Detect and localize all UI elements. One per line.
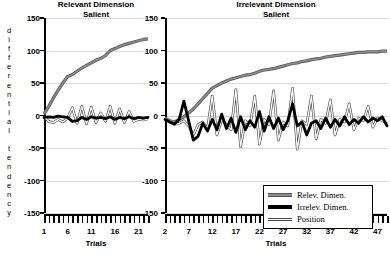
y-tick-label: 0	[154, 111, 158, 120]
x-minor-tick	[245, 216, 247, 223]
x-minor-tick	[101, 216, 103, 223]
x-minor-tick	[208, 216, 210, 223]
y-caption-char: l	[8, 126, 10, 135]
x-minor-tick	[87, 216, 89, 223]
x-minor-tick	[250, 216, 252, 223]
x-tick-label: 2	[163, 227, 167, 236]
x-minor-tick	[110, 216, 112, 223]
y-tick-label: -150	[142, 209, 158, 218]
legend-label-position: Position	[297, 214, 325, 224]
x-minor-tick	[124, 216, 126, 223]
x-minor-tick	[179, 216, 181, 223]
x-tick-label: 11	[87, 227, 95, 236]
panel-left-title: Relevant Dimension Salient	[44, 0, 148, 19]
x-minor-tick	[236, 216, 238, 223]
x-minor-tick	[198, 216, 200, 223]
x-minor-tick	[241, 216, 243, 223]
chart-figure: differentialtendency Relevant Dimension …	[0, 0, 390, 278]
panel-right-title: Irrelevant Dimension Salient	[165, 0, 387, 19]
x-minor-tick	[189, 216, 191, 223]
y-caption-char: y	[7, 208, 11, 217]
y-caption-char: e	[7, 81, 11, 90]
y-tick-label: -50	[146, 144, 158, 153]
x-minor-tick	[63, 216, 65, 223]
x-minor-tick	[58, 216, 60, 223]
x-minor-tick	[378, 216, 380, 223]
legend-label-relev-dimen: Relev. Dimen.	[297, 190, 346, 200]
x-minor-tick	[255, 216, 257, 223]
y-caption-char: e	[7, 153, 11, 162]
x-minor-tick	[129, 216, 131, 223]
x-minor-tick	[387, 216, 389, 223]
plot-area-right	[165, 18, 387, 213]
y-caption-char: i	[8, 108, 10, 117]
y-caption-char: n	[7, 90, 11, 99]
y-tick-label: 100	[145, 46, 158, 55]
legend-swatch-relev-dimen	[268, 191, 292, 200]
x-tick-label: 1	[42, 227, 46, 236]
x-minor-tick	[139, 216, 141, 223]
y-caption-char: a	[7, 117, 11, 126]
x-axis-left	[44, 214, 148, 225]
y-caption-char: t	[8, 99, 10, 108]
x-minor-tick	[72, 216, 74, 223]
y-tick-label: 150	[145, 14, 158, 23]
x-minor-tick	[259, 216, 261, 223]
y-caption-char: d	[7, 172, 11, 181]
x-tick-label: 6	[65, 227, 69, 236]
x-minor-tick	[120, 216, 122, 223]
y-tick-label: -100	[24, 176, 40, 185]
x-minor-tick	[53, 216, 55, 223]
x-minor-tick	[77, 216, 79, 223]
x-minor-tick	[203, 216, 205, 223]
x-tick-labels-left: 16111621	[44, 227, 148, 238]
x-minor-tick	[373, 216, 375, 223]
x-minor-tick	[170, 216, 172, 223]
y-tick-labels-right: 150100500-50-100-150	[132, 18, 158, 213]
y-caption-char: f	[8, 44, 10, 53]
legend-label-irrelev-dimen: Irrelev. Dimen.	[297, 202, 349, 212]
series-right	[165, 18, 387, 213]
y-tick-label: -150	[24, 209, 40, 218]
chart-legend: Relev. Dimen. Irrelev. Dimen. Position	[263, 185, 373, 229]
legend-item-position: Position	[268, 214, 368, 225]
x-minor-tick	[165, 216, 167, 223]
legend-swatch-irrelev-dimen	[268, 203, 292, 212]
y-caption-char: f	[8, 53, 10, 62]
x-minor-tick	[217, 216, 219, 223]
y-tick-label: -50	[28, 144, 40, 153]
x-minor-tick	[212, 216, 214, 223]
x-axis-title-right: Trials	[165, 239, 387, 248]
x-minor-tick	[134, 216, 136, 223]
panel-right-title-line1: Irrelevant Dimension	[165, 0, 387, 10]
y-tick-label: -100	[142, 176, 158, 185]
x-minor-tick	[91, 216, 93, 223]
panel-left-title-line1: Relevant Dimension	[44, 0, 148, 10]
legend-item-irrelev-dimen: Irrelev. Dimen.	[268, 202, 368, 213]
x-minor-tick	[44, 216, 46, 223]
y-caption-char: r	[8, 71, 11, 80]
x-minor-tick	[222, 216, 224, 223]
y-tick-label: 50	[31, 79, 40, 88]
y-tick-label: 100	[27, 46, 40, 55]
x-tick-label: 21	[134, 227, 143, 236]
x-minor-tick	[184, 216, 186, 223]
x-minor-tick	[115, 216, 117, 223]
legend-swatch-position	[268, 215, 292, 224]
x-minor-tick	[105, 216, 107, 223]
y-tick-label: 50	[149, 79, 158, 88]
x-minor-tick	[193, 216, 195, 223]
x-minor-tick	[68, 216, 70, 223]
legend-item-relev-dimen: Relev. Dimen.	[268, 190, 368, 201]
x-tick-label: 17	[231, 227, 240, 236]
y-tick-label: 150	[27, 14, 40, 23]
y-caption-char: e	[7, 62, 11, 71]
x-tick-label: 12	[208, 227, 217, 236]
y-caption-char: n	[7, 190, 11, 199]
y-caption-char: e	[7, 181, 11, 190]
x-minor-tick	[231, 216, 233, 223]
x-minor-tick	[82, 216, 84, 223]
y-caption-char: i	[8, 35, 10, 44]
x-minor-tick	[49, 216, 51, 223]
x-tick-label: 47	[373, 227, 382, 236]
